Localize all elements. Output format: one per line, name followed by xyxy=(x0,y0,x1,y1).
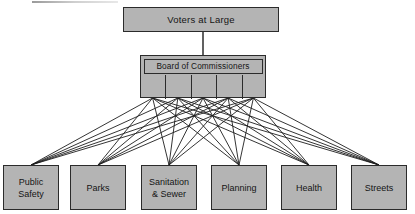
department-label: Planning xyxy=(221,182,256,194)
connector-seat-2-to-dept-2 xyxy=(98,98,178,165)
board-seat-5[interactable] xyxy=(243,75,267,99)
node-board-of-commissioners[interactable]: Board of Commissioners xyxy=(140,55,266,98)
connector-seat-5-to-dept-6 xyxy=(253,98,379,165)
board-seat-row xyxy=(141,75,267,99)
department-label: Public Safety xyxy=(18,176,44,200)
department-label: Parks xyxy=(86,182,109,194)
board-seat-3[interactable] xyxy=(192,75,217,99)
department-label: Sanitation & Sewer xyxy=(149,176,189,200)
connector-seat-1-to-dept-1 xyxy=(31,98,153,165)
org-chart-diagram: Voters at Large Board of Commissioners P… xyxy=(0,0,415,214)
department-label: Health xyxy=(296,182,322,194)
department-label: Streets xyxy=(365,182,394,194)
board-seat-4[interactable] xyxy=(217,75,242,99)
connector-mesh xyxy=(31,98,379,165)
node-department-parks[interactable]: Parks xyxy=(70,165,126,210)
connector-seat-1-to-dept-2 xyxy=(98,98,153,165)
node-department-planning[interactable]: Planning xyxy=(211,165,267,210)
connector-seat-2-to-dept-1 xyxy=(31,98,178,165)
board-seat-2[interactable] xyxy=(166,75,191,99)
node-department-health[interactable]: Health xyxy=(281,165,337,210)
node-department-sanitation-sewer[interactable]: Sanitation & Sewer xyxy=(141,165,197,210)
node-department-streets[interactable]: Streets xyxy=(351,165,407,210)
connector-seat-3-to-dept-2 xyxy=(98,98,203,165)
board-header-label: Board of Commissioners xyxy=(156,61,249,71)
node-voters-label: Voters at Large xyxy=(167,14,234,25)
node-voters-at-large[interactable]: Voters at Large xyxy=(123,7,279,32)
board-header: Board of Commissioners xyxy=(144,59,263,74)
connector-seat-5-to-dept-5 xyxy=(253,98,309,165)
node-department-public-safety[interactable]: Public Safety xyxy=(3,165,59,210)
connector-seat-5-to-dept-1 xyxy=(31,98,253,165)
top-edge-artifact-rule xyxy=(32,1,118,3)
board-seat-1[interactable] xyxy=(141,75,166,99)
